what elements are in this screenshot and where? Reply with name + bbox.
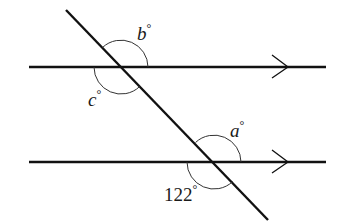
angle-b-label: b° bbox=[137, 21, 152, 44]
angle-a-label: a° bbox=[230, 118, 245, 141]
parallel-lines-diagram: b° c° a° 122° bbox=[0, 0, 351, 224]
angle-c-label: c° bbox=[88, 87, 101, 110]
angle-122-label: 122° bbox=[164, 182, 198, 205]
